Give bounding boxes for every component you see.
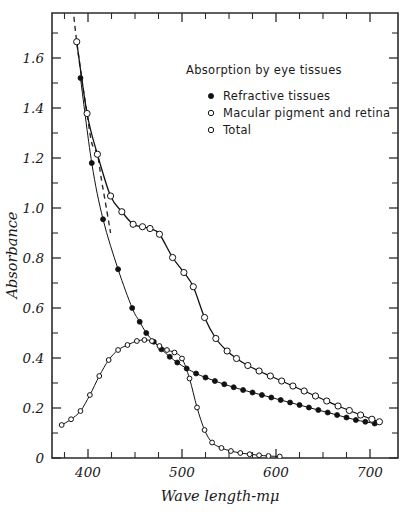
chart-ticks bbox=[52, 13, 398, 458]
y-tick-label: 0.6 bbox=[23, 300, 45, 316]
data-point-refractive-tissues bbox=[144, 331, 149, 336]
data-point-total bbox=[290, 383, 296, 389]
data-point-total bbox=[139, 224, 145, 230]
data-point-total bbox=[181, 269, 187, 275]
absorption-chart: 40050060070000.20.40.60.81.01.21.41.6 Ab… bbox=[0, 0, 416, 524]
data-point-total bbox=[369, 416, 375, 422]
chart-figure: 40050060070000.20.40.60.81.01.21.41.6 Ab… bbox=[0, 0, 416, 524]
data-point-total bbox=[301, 388, 307, 394]
data-point-macular-pigment bbox=[150, 339, 155, 344]
y-tick-label: 1.4 bbox=[23, 100, 44, 116]
legend-entry-label: Macular pigment and retina bbox=[223, 106, 390, 120]
data-point-refractive-tissues bbox=[184, 366, 189, 371]
data-point-refractive-tissues bbox=[278, 398, 283, 403]
data-point-total bbox=[267, 373, 273, 379]
data-point-refractive-tissues bbox=[306, 405, 311, 410]
data-point-macular-pigment bbox=[97, 374, 102, 379]
data-point-macular-pigment bbox=[125, 343, 130, 348]
data-point-total bbox=[256, 368, 262, 374]
x-tick-label: 700 bbox=[357, 464, 383, 480]
data-point-total bbox=[312, 393, 318, 399]
data-point-total bbox=[324, 398, 330, 404]
data-point-refractive-tissues bbox=[335, 413, 340, 418]
data-point-macular-pigment bbox=[142, 338, 147, 343]
data-point-total bbox=[107, 193, 113, 199]
chart-markers bbox=[59, 39, 382, 459]
data-point-macular-pigment bbox=[165, 348, 170, 353]
data-point-refractive-tissues bbox=[288, 400, 293, 405]
y-tick-label: 0.8 bbox=[23, 250, 45, 266]
data-point-total bbox=[94, 151, 100, 157]
x-tick-label: 600 bbox=[263, 464, 289, 480]
data-point-total bbox=[170, 254, 176, 260]
data-point-macular-pigment bbox=[157, 344, 162, 349]
data-point-macular-pigment bbox=[219, 446, 224, 451]
data-point-total bbox=[224, 348, 230, 354]
data-point-refractive-tissues bbox=[137, 319, 142, 324]
data-point-refractive-tissues bbox=[130, 306, 135, 311]
data-point-refractive-tissues bbox=[353, 418, 358, 423]
y-tick-label: 0.2 bbox=[23, 400, 44, 416]
data-point-refractive-tissues bbox=[241, 388, 246, 393]
data-point-refractive-tissues bbox=[269, 395, 274, 400]
legend-marker-open-circle-icon bbox=[208, 127, 213, 132]
y-tick-label: 0.4 bbox=[23, 350, 44, 366]
data-point-total bbox=[213, 335, 219, 341]
data-point-refractive-tissues bbox=[259, 393, 264, 398]
legend-entry-label: Refractive tissues bbox=[223, 89, 330, 103]
data-point-total bbox=[74, 39, 80, 45]
data-point-macular-pigment bbox=[106, 358, 111, 363]
data-point-total bbox=[190, 284, 196, 290]
data-point-refractive-tissues bbox=[231, 385, 236, 390]
x-axis-title: Wave length-mμ bbox=[161, 488, 280, 504]
data-point-macular-pigment bbox=[116, 348, 121, 353]
data-point-total bbox=[233, 355, 239, 361]
data-point-refractive-tissues bbox=[222, 382, 227, 387]
x-tick-label: 500 bbox=[169, 464, 195, 480]
data-point-macular-pigment bbox=[187, 376, 192, 381]
legend-marker-open-circle-icon bbox=[208, 110, 213, 115]
data-point-refractive-tissues bbox=[212, 379, 217, 384]
data-point-refractive-tissues bbox=[363, 419, 368, 424]
data-point-macular-pigment bbox=[78, 409, 83, 414]
data-point-total bbox=[245, 362, 251, 368]
data-point-macular-pigment bbox=[228, 449, 233, 454]
data-point-macular-pigment bbox=[87, 393, 92, 398]
data-point-macular-pigment bbox=[180, 356, 185, 361]
data-point-refractive-tissues bbox=[175, 360, 180, 365]
data-point-total bbox=[376, 419, 382, 425]
data-point-total bbox=[147, 225, 153, 231]
data-point-total bbox=[279, 378, 285, 384]
data-point-macular-pigment bbox=[266, 454, 271, 459]
y-tick-label: 1.6 bbox=[23, 50, 45, 66]
data-point-refractive-tissues bbox=[203, 375, 208, 380]
x-tick-label: 400 bbox=[74, 464, 101, 480]
data-point-refractive-tissues bbox=[167, 354, 172, 359]
data-point-refractive-tissues bbox=[194, 371, 199, 376]
data-point-refractive-tissues bbox=[250, 390, 255, 395]
data-point-refractive-tissues bbox=[297, 403, 302, 408]
data-point-total bbox=[358, 412, 364, 418]
data-point-total bbox=[346, 407, 352, 413]
data-point-total bbox=[119, 209, 125, 215]
legend-entry-label: Total bbox=[222, 123, 251, 137]
data-point-refractive-tissues bbox=[78, 76, 83, 81]
data-point-macular-pigment bbox=[59, 423, 64, 428]
data-point-macular-pigment bbox=[134, 339, 139, 344]
data-point-total bbox=[156, 231, 162, 237]
data-point-refractive-tissues bbox=[344, 415, 349, 420]
data-point-macular-pigment bbox=[238, 451, 243, 456]
chart-axes bbox=[52, 13, 398, 458]
data-point-refractive-tissues bbox=[116, 267, 121, 272]
data-point-macular-pigment bbox=[202, 428, 207, 433]
data-point-macular-pigment bbox=[257, 453, 262, 458]
data-point-refractive-tissues bbox=[316, 408, 321, 413]
y-tick-label: 1.2 bbox=[23, 150, 44, 166]
y-axis-title: Absorbance bbox=[4, 212, 20, 301]
y-tick-label: 0 bbox=[35, 450, 44, 466]
data-point-total bbox=[335, 403, 341, 409]
data-point-macular-pigment bbox=[69, 417, 74, 422]
data-point-refractive-tissues bbox=[101, 217, 106, 222]
chart-title: Absorption by eye tissues bbox=[186, 63, 342, 77]
y-tick-label: 1.0 bbox=[23, 200, 45, 216]
